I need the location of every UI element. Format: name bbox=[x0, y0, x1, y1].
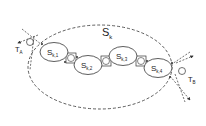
node-sk2: Sk,2 bbox=[74, 56, 102, 75]
node-sk4: Sk,4 bbox=[144, 59, 172, 78]
outer-label-main: S bbox=[102, 26, 109, 38]
terminal-a: TA bbox=[15, 29, 43, 70]
terminal-b-circle bbox=[179, 68, 186, 75]
terminal-b: TB bbox=[169, 52, 196, 102]
node-sk1: Sk,1 bbox=[40, 43, 68, 62]
diagram-canvas: Sk Sk,1 Sk,2 Sk,3 Sk,4 bbox=[0, 0, 206, 126]
terminal-a-circle bbox=[27, 39, 34, 46]
outer-label-sub: k bbox=[109, 34, 113, 40]
node-sk3: Sk,3 bbox=[109, 47, 137, 66]
outer-label: Sk bbox=[102, 26, 113, 40]
svg-text:TA: TA bbox=[15, 45, 23, 55]
svg-text:TB: TB bbox=[188, 75, 196, 85]
